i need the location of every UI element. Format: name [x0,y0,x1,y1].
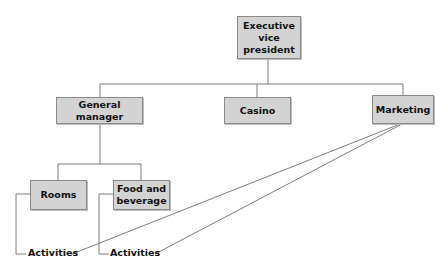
connector-marketing-activities-2 [155,124,402,254]
node-food-and-beverage: Food and beverage [113,180,170,210]
connector-fb-activities [99,194,113,254]
node-rooms: Rooms [30,180,87,210]
node-general-manager: General manager [56,97,143,124]
node-casino: Casino [224,97,291,124]
node-executive-vice-president: Executive vice president [237,16,301,59]
connector-lines [0,0,448,274]
node-casino-label: Casino [240,105,276,117]
node-rooms-label: Rooms [41,189,77,201]
node-marketing: Marketing [372,95,434,124]
activities-label-food-beverage: Activities [110,247,160,258]
activities-label-rooms: Activities [28,247,78,258]
node-executive-vp-line1: Executive [238,20,300,32]
node-food-beverage-line2: beverage [116,195,166,207]
node-executive-vp-line2: vice president [238,32,300,56]
node-general-manager-label: General manager [57,99,142,123]
node-food-beverage-line1: Food and [116,183,166,195]
connector-rooms-activities [16,194,30,254]
node-marketing-label: Marketing [376,104,430,116]
org-chart: Executive vice president General manager… [0,0,448,274]
